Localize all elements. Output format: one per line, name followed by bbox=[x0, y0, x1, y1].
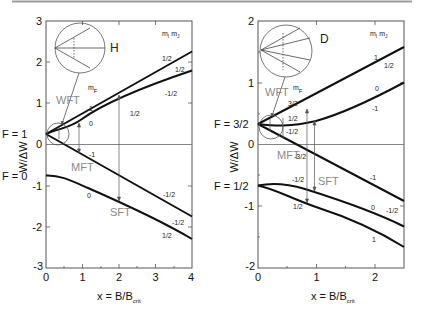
wft-label: WFT bbox=[56, 94, 80, 106]
mf-label: 0 bbox=[89, 120, 93, 127]
mi-label: -1/2 bbox=[163, 191, 175, 198]
y-axis-label: W/ΔW bbox=[17, 141, 29, 173]
mi-label: 1/2 bbox=[162, 232, 172, 239]
mf-label: -1 bbox=[89, 151, 95, 158]
x-axis-label: x = B/Bcrit bbox=[311, 290, 355, 304]
ytick: 1 bbox=[36, 97, 42, 109]
ytick: 1 bbox=[248, 77, 254, 89]
mf-label: 0 bbox=[87, 192, 91, 199]
ytick: 0 bbox=[248, 138, 254, 150]
ytick: -1 bbox=[244, 200, 254, 212]
mj-label: -1/2 bbox=[386, 207, 398, 214]
mf-label: 1 bbox=[89, 105, 93, 112]
xtick: 4 bbox=[188, 271, 194, 283]
ytick: -2 bbox=[32, 221, 42, 233]
level-label-f3-2: F = 3/2 bbox=[214, 118, 249, 130]
ytick: 2 bbox=[248, 15, 254, 27]
mf-label: 3/2 bbox=[288, 100, 298, 107]
ytick: -2 bbox=[245, 260, 255, 272]
mft-label: MFT bbox=[71, 161, 94, 173]
x-axis-label: x = B/Bcrit bbox=[97, 290, 141, 304]
mf-label: -1/2 bbox=[286, 128, 298, 135]
level-label-f1-2: F = 1/2 bbox=[214, 180, 249, 192]
wft-label: WFT bbox=[265, 86, 289, 98]
figure: 3 2 1 0 -1 -2 -3 0 1 2 3 4 x = B/Bcrit W… bbox=[0, 0, 421, 312]
sft-label: SFT bbox=[318, 175, 339, 187]
mi-label: -1/2 bbox=[165, 90, 177, 97]
mf-header: mF bbox=[293, 84, 303, 94]
panel-title: D bbox=[320, 32, 329, 46]
xtick: 1 bbox=[79, 271, 85, 283]
mj-label: -1 bbox=[372, 105, 378, 112]
ytick: 0 bbox=[36, 138, 42, 150]
mi-label: 0 bbox=[371, 204, 375, 211]
zoom-inset-lines bbox=[261, 28, 310, 72]
panel-title: H bbox=[110, 41, 119, 55]
mj-label: -1/2 bbox=[172, 219, 184, 226]
mi-mj-header: mI mJ bbox=[162, 30, 180, 39]
sft-label: SFT bbox=[110, 206, 131, 218]
xtick: 1 bbox=[313, 271, 319, 283]
mid-label: 1/2 bbox=[130, 110, 140, 117]
mf-header: mF bbox=[88, 84, 98, 94]
xtick: 2 bbox=[372, 271, 378, 283]
ytick: -3 bbox=[33, 260, 43, 272]
ytick: 2 bbox=[36, 56, 42, 68]
mi-label: 1 bbox=[372, 236, 376, 243]
mi-label: 1 bbox=[374, 54, 378, 61]
level-label-f0: F = 0 bbox=[2, 170, 27, 182]
mj-label: 1/2 bbox=[175, 66, 185, 73]
level-label-f1: F = 1 bbox=[2, 128, 27, 140]
y-axis-label: W/ΔW bbox=[228, 141, 240, 173]
mf-label: -3/2 bbox=[294, 153, 306, 160]
xtick: 0 bbox=[255, 271, 261, 283]
panel-d: 2 1 0 -1 -2 0 1 2 x = B/Bcrit W/ΔW F = 3… bbox=[214, 15, 404, 304]
mi-label: 1/2 bbox=[162, 55, 172, 62]
ytick: -1 bbox=[32, 180, 42, 192]
xtick: 3 bbox=[152, 271, 158, 283]
mf-label: 1/2 bbox=[293, 203, 303, 210]
mi-label: -1 bbox=[370, 174, 376, 181]
xtick: 0 bbox=[43, 271, 49, 283]
mf-label: 1/2 bbox=[288, 115, 298, 122]
panel-h: 3 2 1 0 -1 -2 -3 0 1 2 3 4 x = B/Bcrit W… bbox=[2, 15, 194, 304]
mf-label: -1/2 bbox=[292, 176, 304, 183]
zoom-inset-lines bbox=[55, 28, 105, 68]
mj-label: 1/2 bbox=[384, 62, 394, 69]
mi-mj-header: mI mJ bbox=[370, 30, 388, 39]
mi-label: 0 bbox=[375, 85, 379, 92]
xtick: 2 bbox=[116, 271, 122, 283]
ytick: 3 bbox=[36, 15, 42, 27]
